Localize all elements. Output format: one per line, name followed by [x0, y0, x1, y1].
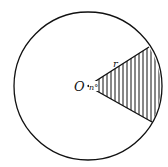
- sector-hatching: [95, 0, 159, 167]
- angle-label-n: n°: [89, 83, 98, 92]
- center-label-o: O: [74, 79, 85, 94]
- circle-sector-diagram: O r n°: [0, 0, 168, 167]
- diagram-canvas: O r n°: [0, 0, 168, 167]
